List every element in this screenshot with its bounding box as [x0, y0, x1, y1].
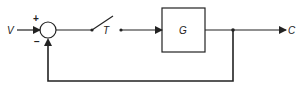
summing-junction — [40, 22, 56, 38]
feedback-arrowhead — [44, 38, 52, 46]
output-label: C — [288, 25, 296, 36]
input-label: V — [7, 25, 15, 36]
switch-label: T — [103, 25, 110, 36]
block-label: G — [179, 25, 187, 36]
block-diagram: V + − T G C — [0, 0, 302, 88]
minus-sign: − — [34, 36, 40, 47]
plus-sign: + — [33, 13, 39, 24]
